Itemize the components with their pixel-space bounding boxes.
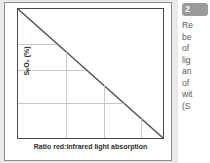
caption-number-badge: 2 bbox=[182, 3, 208, 16]
caption-text: Rebeof liganof wit(S bbox=[182, 20, 210, 112]
chart-plot-area bbox=[17, 8, 164, 139]
caption-panel: 2 Rebeof liganof wit(S bbox=[178, 0, 210, 163]
y-axis-label: SₚO₂ (%) bbox=[23, 31, 31, 91]
gridline-vertical bbox=[141, 119, 142, 138]
caption-line: of bbox=[182, 43, 210, 55]
gridline-vertical bbox=[104, 85, 105, 138]
x-axis-label: Ratio red:infrared light absorption bbox=[17, 143, 164, 150]
caption-line: lig bbox=[182, 55, 210, 67]
caption-line: Re bbox=[182, 20, 210, 32]
figure-card: SₚO₂ (%) Ratio red:infrared light absorp… bbox=[4, 2, 172, 161]
figure-screenshot-root: SₚO₂ (%) Ratio red:infrared light absorp… bbox=[0, 0, 210, 163]
caption-line: of bbox=[182, 78, 210, 90]
caption-line: wit bbox=[182, 89, 210, 101]
gridline-vertical bbox=[66, 52, 67, 138]
caption-line: be bbox=[182, 32, 210, 44]
gridline-horizontal bbox=[18, 103, 124, 104]
caption-line: an bbox=[182, 66, 210, 78]
caption-line: (S bbox=[182, 101, 210, 113]
